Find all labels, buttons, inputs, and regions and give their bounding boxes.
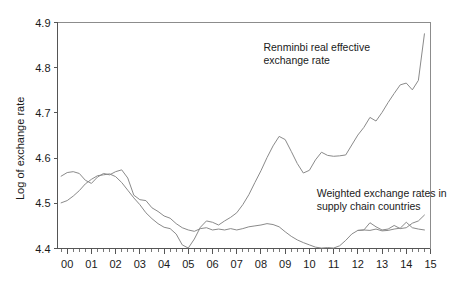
y-tick-label-4.5: 4.5 [35, 197, 50, 209]
y-tick-label-4.9: 4.9 [35, 17, 50, 29]
x-tick-label-00: 00 [61, 258, 73, 270]
y-tick-label-4.4: 4.4 [35, 243, 50, 255]
y-tick-label-4.8: 4.8 [35, 62, 50, 74]
x-tick-label-12: 12 [352, 258, 364, 270]
x-tick-label-13: 13 [376, 258, 388, 270]
x-tick-label-04: 04 [158, 258, 170, 270]
x-tick-label-06: 06 [206, 258, 218, 270]
x-tick-label-05: 05 [182, 258, 194, 270]
chart-figure: 4.44.54.64.74.84.9 000102030405060708091… [0, 0, 450, 284]
x-tick-label-10: 10 [303, 258, 315, 270]
x-tick-label-09: 09 [279, 258, 291, 270]
y-tick-label-4.7: 4.7 [35, 107, 50, 119]
x-tick-label-11: 11 [328, 258, 339, 270]
x-tick-label-02: 02 [110, 258, 122, 270]
x-tick-label-07: 07 [231, 258, 243, 270]
supply-chain-label-line-0: Weighted exchange rates in [317, 187, 447, 199]
chart-canvas: 4.44.54.64.74.84.9 000102030405060708091… [0, 0, 450, 284]
x-tick-label-01: 01 [85, 258, 97, 270]
y-axis-title: Log of exchange rate [14, 97, 26, 200]
renminbi-reer-label-line-1: exchange rate [263, 54, 330, 66]
x-tick-label-15: 15 [424, 258, 436, 270]
renminbi-reer-label-line-0: Renminbi real effective [263, 41, 370, 53]
supply-chain-label-line-1: supply chain countries [317, 200, 421, 212]
x-tick-label-08: 08 [255, 258, 267, 270]
chart-background [0, 0, 450, 284]
y-tick-label-4.6: 4.6 [35, 152, 50, 164]
x-tick-label-14: 14 [400, 258, 412, 270]
x-tick-label-03: 03 [134, 258, 146, 270]
